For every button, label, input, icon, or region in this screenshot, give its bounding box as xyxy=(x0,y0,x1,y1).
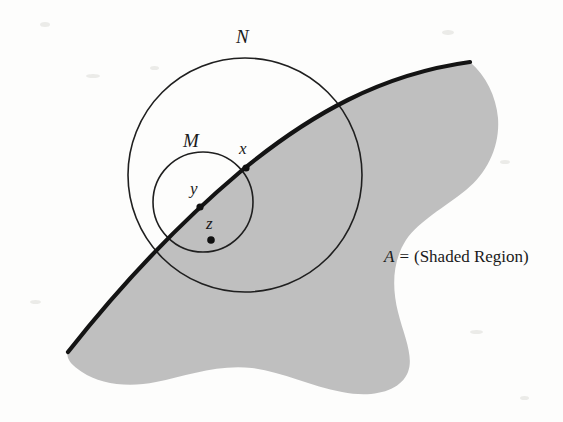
caption-shaded-region: A=(Shaded Region) xyxy=(384,248,529,265)
label-point-z: z xyxy=(206,215,213,232)
label-inner-circle-M: M xyxy=(183,131,199,150)
caption-symbol-a: A xyxy=(384,247,394,266)
caption-equals: = xyxy=(399,247,409,266)
label-point-y: y xyxy=(190,180,198,197)
figure-container: N M x y z A=(Shaded Region) xyxy=(0,0,563,422)
diagram-svg xyxy=(0,0,563,422)
point-dot-x xyxy=(242,164,249,171)
caption-text: (Shaded Region) xyxy=(414,247,529,266)
point-dot-y xyxy=(196,203,203,210)
shaded-region-fill xyxy=(68,62,499,394)
label-outer-circle-N: N xyxy=(236,27,249,46)
point-dot-z xyxy=(207,236,215,244)
label-point-x: x xyxy=(239,140,247,157)
